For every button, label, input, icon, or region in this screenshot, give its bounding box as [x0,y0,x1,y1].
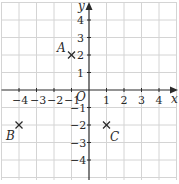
y-tick-label: 1 [77,67,84,80]
point-label-a: A [56,41,66,55]
point-label-b: B [5,129,15,143]
x-tick-label: −2 [47,94,63,107]
y-tick-label: 3 [77,32,84,45]
y-axis-arrow-icon [86,2,93,10]
x-tick-label: 3 [138,94,145,107]
y-tick-label: −4 [70,154,86,167]
point-label-c: C [110,130,119,144]
point-a: A [56,41,75,59]
y-tick-label: −3 [70,137,86,150]
y-axis-label: y [77,0,85,13]
x-tick-label: −4 [12,94,28,107]
x-axis-label: x [171,92,178,106]
y-tick-label: −2 [70,119,86,132]
y-tick-label: −1 [70,102,86,115]
x-tick-label: 2 [121,94,128,107]
coordinate-grid-diagram: x y O −4 −3 −2 −1 1 2 3 4 4 3 2 1 −1 −2 … [0,0,179,184]
x-tick-label: 1 [103,94,110,107]
y-tick-label: 4 [77,14,84,27]
x-tick-label: 4 [156,94,163,107]
x-tick-label: −3 [30,94,46,107]
y-tick-label: 2 [77,49,84,62]
